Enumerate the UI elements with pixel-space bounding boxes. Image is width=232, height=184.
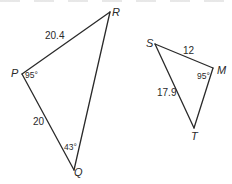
triangle-smt [155,44,213,128]
vertex-label-t: T [191,131,198,142]
side-pr [22,12,110,74]
angle-label-p: 95° [25,71,38,80]
side-label-sm: 12 [183,46,194,56]
triangles-drawing [0,0,232,184]
side-label-pr: 20.4 [45,31,64,41]
side-label-st: 17.9 [157,88,176,98]
side-pq [22,74,74,170]
angle-label-q: 43° [64,143,77,152]
vertex-label-p: P [11,68,18,79]
side-qr [74,12,110,170]
vertex-label-m: M [217,65,226,76]
diagram-canvas: R P Q 20.4 20 95° 43° S M T 12 17.9 95° [0,0,232,184]
vertex-label-q: Q [74,167,83,178]
side-label-pq: 20 [33,117,44,127]
vertex-label-s: S [146,38,153,49]
side-st [155,44,194,128]
vertex-label-r: R [112,7,120,18]
angle-label-m: 95° [197,72,210,81]
